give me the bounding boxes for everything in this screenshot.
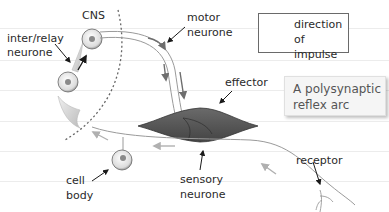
legend-line1: direction bbox=[294, 17, 348, 32]
label-effector: effector bbox=[225, 75, 268, 90]
label-motor-neurone-line2: neurone bbox=[187, 25, 232, 40]
label-relay-neurone-line2: neurone bbox=[7, 45, 52, 60]
label-cell-body-line1: cell bbox=[66, 173, 85, 188]
label-sensory-neurone-line1: sensory bbox=[180, 172, 223, 187]
label-motor-neurone-line1: motor bbox=[187, 10, 220, 25]
receptor-endings bbox=[316, 190, 333, 212]
label-relay-neurone-line1: inter/relay bbox=[7, 31, 64, 46]
label-cell-body-line2: body bbox=[66, 188, 93, 203]
legend-text: direction of impulse bbox=[294, 17, 348, 62]
label-cns: CNS bbox=[82, 8, 105, 23]
caption-text: A polysynaptic reflex arc bbox=[293, 81, 381, 113]
caption-line2: reflex arc bbox=[293, 97, 381, 113]
legend-box: direction of impulse bbox=[258, 13, 349, 53]
caption-line1: A polysynaptic bbox=[293, 81, 381, 97]
label-receptor: receptor bbox=[296, 153, 342, 168]
reflex-arc-diagram: CNS inter/relay neurone motor neurone ef… bbox=[0, 0, 389, 212]
label-sensory-neurone-line2: neurone bbox=[180, 187, 225, 202]
relay-neurone-tail bbox=[58, 96, 80, 128]
motor-neurone-axon bbox=[100, 31, 183, 118]
caption-box: A polysynaptic reflex arc bbox=[284, 76, 386, 116]
legend-line2: of impulse bbox=[294, 32, 348, 62]
relay-neurone-cone bbox=[72, 42, 83, 72]
